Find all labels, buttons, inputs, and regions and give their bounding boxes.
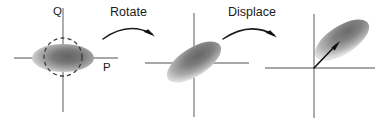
diagram-canvas: Q P Rotate Displace: [0, 0, 381, 123]
displace-transition: [223, 29, 277, 39]
phase-space-diagram: Q P Rotate Displace: [0, 0, 381, 123]
displaced-state-ellipse: [308, 11, 375, 68]
displace-step-label: Displace: [228, 5, 276, 19]
panel-3-displaced: [265, 11, 376, 118]
panel-1-squeezed: Q P: [14, 5, 118, 112]
p-axis-label: P: [103, 61, 111, 73]
rotate-transition: [103, 29, 155, 39]
squeezed-state-ellipse: [32, 44, 94, 72]
q-axis-label: Q: [53, 5, 62, 17]
displace-curved-arrow: [223, 29, 274, 39]
rotate-step-label: Rotate: [110, 5, 147, 19]
rotate-curved-arrow: [103, 29, 152, 39]
panel-2-rotated: [145, 13, 249, 117]
